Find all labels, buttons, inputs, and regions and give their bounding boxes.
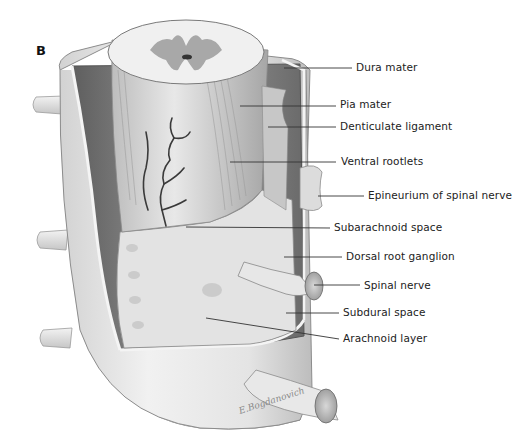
label-subdural-space: Subdural space	[343, 306, 426, 318]
label-epineurium: Epineurium of spinal nerve	[368, 189, 512, 201]
label-spinal-nerve: Spinal nerve	[364, 279, 431, 291]
label-ventral-rootlets: Ventral rootlets	[341, 155, 423, 167]
label-arachnoid-layer: Arachnoid layer	[343, 332, 427, 344]
label-subarachnoid-space: Subarachnoid space	[334, 221, 442, 233]
label-pia-mater: Pia mater	[340, 98, 391, 110]
label-dorsal-root-ganglion: Dorsal root ganglion	[346, 250, 455, 262]
central-canal	[182, 55, 192, 60]
panel-letter: B	[36, 43, 46, 58]
lower-nerve-cut	[315, 389, 337, 423]
label-dura-mater: Dura mater	[356, 61, 417, 73]
label-denticulate-ligament: Denticulate ligament	[340, 120, 452, 132]
